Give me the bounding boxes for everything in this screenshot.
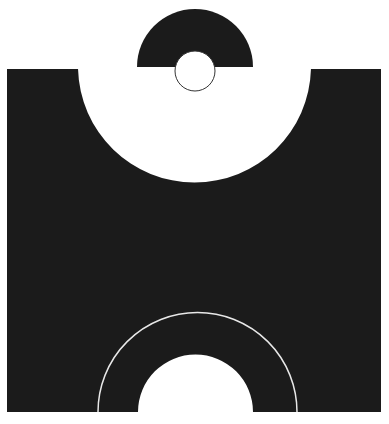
geometric-diagram xyxy=(0,0,389,424)
small-circle xyxy=(175,51,215,91)
